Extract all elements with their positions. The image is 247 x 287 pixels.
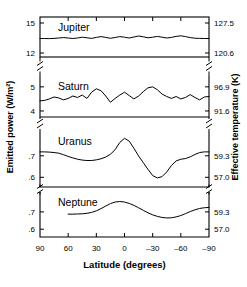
- ytick-label-right-91.6: 91.6: [214, 107, 230, 116]
- panel-label-saturn: Saturn: [58, 80, 89, 92]
- axis-break-mark-1-1: [206, 119, 212, 128]
- ytick-label-right-59.3: 59.3: [214, 152, 230, 161]
- ytick-label-left-5: 5: [31, 83, 36, 92]
- xtick-label-90: 90: [36, 244, 45, 253]
- xtick-label-30: 30: [92, 244, 101, 253]
- x-axis-title: Latitude (degrees): [83, 259, 165, 270]
- panel-label-neptune: Neptune: [58, 196, 98, 208]
- ytick-label-right-120.6: 120.6: [214, 49, 235, 58]
- ytick-label-right-96.9: 96.9: [214, 83, 230, 92]
- data-curve-jupiter: [40, 36, 209, 39]
- chart-svg: 1512127.5120.6Jupiter5496.991.6Saturn.7.…: [0, 0, 247, 287]
- ytick-label-left-15: 15: [26, 19, 35, 28]
- ytick-label-left-.7: .7: [28, 208, 35, 217]
- ytick-label-left-.7: .7: [28, 152, 35, 161]
- ytick-label-right-57.0: 57.0: [214, 173, 230, 182]
- panel-label-jupiter: Jupiter: [58, 21, 90, 33]
- xtick-label-–90: –90: [202, 244, 216, 253]
- xtick-label-–60: –60: [174, 244, 188, 253]
- y-axis-title-right: Effective temperature (K): [230, 73, 240, 180]
- ytick-label-right-127.5: 127.5: [214, 19, 235, 28]
- axis-break-mark-1-0: [37, 119, 43, 128]
- y-axis-title-left: Emitted power (W/m²): [5, 81, 15, 174]
- ytick-label-right-59.3: 59.3: [214, 208, 230, 217]
- xtick-label-0: 0: [122, 244, 127, 253]
- ytick-label-left-4: 4: [31, 107, 36, 116]
- ytick-label-left-.6: .6: [28, 173, 35, 182]
- panel-label-uranus: Uranus: [58, 135, 92, 147]
- axis-break-mark-0-0: [37, 62, 43, 71]
- xtick-label-–30: –30: [146, 244, 160, 253]
- ytick-label-left-12: 12: [26, 49, 35, 58]
- xtick-label-60: 60: [64, 244, 73, 253]
- axis-break-mark-0-1: [206, 62, 212, 71]
- ytick-label-left-.6: .6: [28, 225, 35, 234]
- emitted-power-vs-latitude-figure: 1512127.5120.6Jupiter5496.991.6Saturn.7.…: [0, 0, 247, 287]
- ytick-label-right-57.0: 57.0: [214, 225, 230, 234]
